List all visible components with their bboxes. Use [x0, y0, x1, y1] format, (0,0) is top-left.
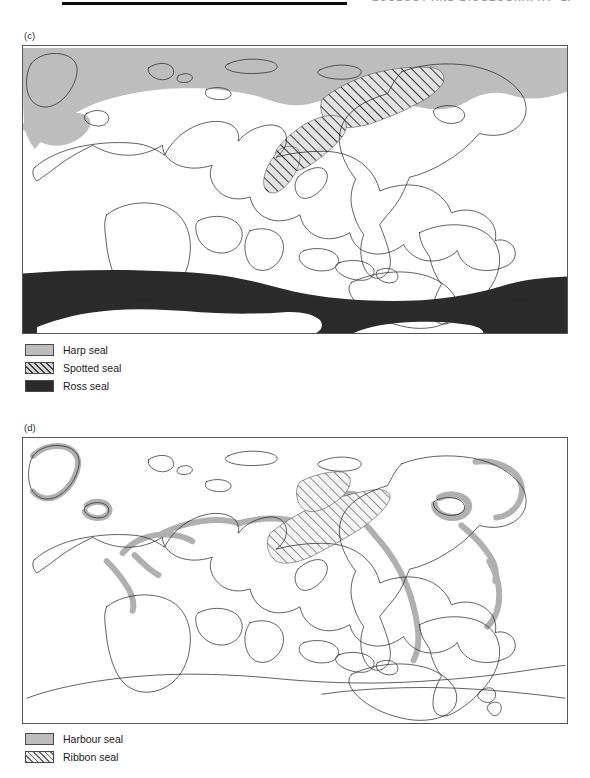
running-head: ECOLOGY AND BIOGEOGRAPHY 27 [0, 0, 590, 10]
header-rule [62, 2, 347, 5]
swatch-spotted-seal [25, 362, 54, 374]
legend-item-ribbon-seal: Ribbon seal [25, 749, 123, 765]
legend-item-spotted-seal: Spotted seal [25, 360, 121, 376]
map-c-svg [23, 46, 567, 333]
legend-panel-d: Harbour seal Ribbon seal [25, 731, 123, 767]
swatch-harbour-seal [25, 733, 54, 745]
map-d-svg [23, 438, 567, 723]
map-panel-c [22, 45, 568, 334]
panel-label-c: (c) [24, 30, 35, 41]
legend-label-ribbon-seal: Ribbon seal [63, 751, 118, 763]
legend-label-harbour-seal: Harbour seal [63, 733, 123, 745]
running-head-title: ECOLOGY AND BIOGEOGRAPHY [372, 0, 554, 3]
page-number: 27 [561, 0, 572, 3]
swatch-ross-seal [25, 380, 54, 392]
legend-label-ross-seal: Ross seal [63, 380, 109, 392]
legend-item-harbour-seal: Harbour seal [25, 731, 123, 747]
swatch-harp-seal [25, 344, 54, 356]
legend-label-harp-seal: Harp seal [63, 344, 108, 356]
map-panel-d [22, 437, 568, 724]
swatch-ribbon-seal [25, 751, 54, 763]
legend-item-harp-seal: Harp seal [25, 342, 121, 358]
legend-panel-c: Harp seal Spotted seal Ross seal [25, 342, 121, 396]
legend-label-spotted-seal: Spotted seal [63, 362, 121, 374]
panel-label-d: (d) [24, 422, 36, 433]
legend-item-ross-seal: Ross seal [25, 378, 121, 394]
